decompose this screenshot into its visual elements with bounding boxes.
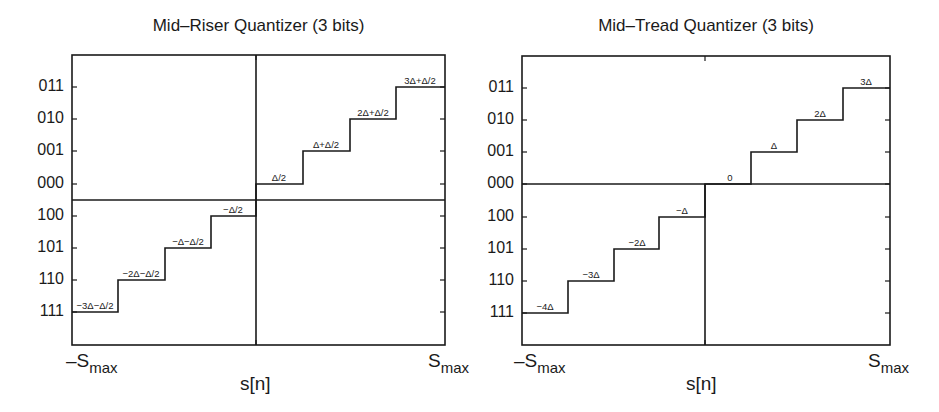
step-label: Δ [771,140,777,151]
step-label: −4Δ [536,301,553,312]
mid-tread-chart: Mid–Tread Quantizer (3 bits) 011 010 001… [0,0,939,412]
y-tick-label: 001 [466,142,514,160]
mid-tread-plot [0,0,939,412]
y-tick-label: 000 [466,174,514,192]
step-label: −2Δ [628,237,645,248]
y-tick-label: 110 [466,271,514,289]
x-max-label: Smax [868,350,909,376]
y-tick-label: 101 [466,239,514,257]
x-axis-label: s[n] [686,373,717,395]
step-label: 2Δ [814,108,826,119]
x-min-label: –Smax [514,350,566,376]
step-label: 3Δ [860,76,872,87]
y-tick-label: 010 [466,110,514,128]
step-label: −3Δ [582,269,599,280]
step-label: 0 [727,172,732,183]
step-label: −Δ [676,205,688,216]
y-tick-label: 100 [466,207,514,225]
y-tick-label: 011 [466,78,514,96]
y-tick-label: 111 [466,303,514,321]
